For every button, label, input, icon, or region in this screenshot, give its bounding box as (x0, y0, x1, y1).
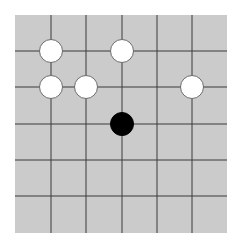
white-stone[interactable] (40, 76, 63, 99)
white-stone[interactable] (181, 76, 204, 99)
white-stone[interactable] (40, 40, 63, 63)
white-stone[interactable] (111, 40, 134, 63)
black-stone[interactable] (111, 113, 134, 136)
white-stone[interactable] (75, 76, 98, 99)
game-board[interactable] (15, 15, 227, 233)
board-grid[interactable] (15, 15, 227, 233)
